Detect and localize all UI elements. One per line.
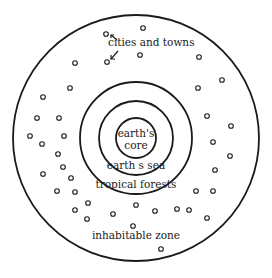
settlement-marker-icon [62, 134, 67, 139]
settlement-marker-icon [68, 86, 73, 91]
settlement-marker-icon [138, 53, 143, 58]
label-earths-core-line1: earth's [118, 127, 155, 139]
settlement-marker-icon [134, 203, 139, 208]
label-tropical-forests: tropical forests [96, 178, 177, 190]
settlement-marker-icon [35, 116, 40, 121]
settlement-marker-icon [86, 201, 91, 206]
settlement-marker-icon [141, 26, 146, 31]
label-cities-and-towns: cities and towns [108, 36, 195, 48]
settlement-marker-icon [56, 152, 61, 157]
settlement-marker-icon [73, 61, 78, 66]
settlement-marker-icon [187, 208, 192, 213]
settlement-marker-icon [57, 116, 62, 121]
settlement-marker-icon [40, 142, 45, 147]
settlement-marker-icon [73, 190, 78, 195]
settlement-marker-icon [159, 247, 164, 252]
settlement-marker-icon [205, 114, 210, 119]
settlement-marker-icon [69, 176, 74, 181]
settlement-marker-icon [229, 124, 234, 129]
label-earths-core-line2: core [124, 139, 147, 151]
settlement-marker-icon [228, 154, 233, 159]
settlement-marker-icon [153, 209, 158, 214]
settlement-marker-icon [41, 172, 46, 177]
settlement-marker-icon [28, 134, 33, 139]
settlement-marker-icon [211, 140, 216, 145]
settlement-marker-icon [194, 189, 199, 194]
settlement-marker-icon [131, 224, 136, 229]
settlement-marker-icon [73, 208, 78, 213]
settlement-marker-icon [220, 78, 225, 83]
settlement-marker-icon [111, 212, 116, 217]
settlement-marker-icon [61, 165, 66, 170]
label-earths-sea: earth s sea [107, 159, 165, 171]
label-inhabitable-zone: inhabitable zone [92, 229, 180, 241]
settlement-marker-icon [41, 95, 46, 100]
settlement-marker-icon [55, 189, 60, 194]
settlement-marker-icon [105, 60, 110, 65]
settlement-marker-icon [205, 216, 210, 221]
settlement-marker-icon [175, 207, 180, 212]
earth-zones-diagram: earth's core earth s sea tropical forest… [0, 0, 272, 278]
settlement-marker-icon [211, 189, 216, 194]
settlement-marker-icon [196, 86, 201, 91]
pointer-arrow-down-icon [111, 51, 118, 59]
settlement-marker-icon [213, 168, 218, 173]
settlement-marker-icon [85, 217, 90, 222]
settlement-marker-icon [197, 55, 202, 60]
